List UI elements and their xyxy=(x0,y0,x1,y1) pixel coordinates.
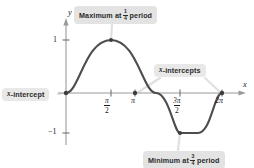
point-maximum xyxy=(109,38,113,42)
x-tick-label-pi-over-2: π 2 xyxy=(104,97,110,115)
callout-minimum-fraction: 3 4 xyxy=(190,154,195,166)
x-tick-label-2pi: 2π xyxy=(215,97,223,105)
sine-curve xyxy=(66,40,222,133)
callout-maximum-fraction: 1 4 xyxy=(123,9,128,21)
callout-leader-lines xyxy=(58,24,221,150)
callout-x-intercepts-text: -intercepts xyxy=(163,67,201,74)
y-tick-label-one: 1 xyxy=(53,36,57,44)
callout-maximum-fraction-numerator: 1 xyxy=(123,9,128,14)
callout-minimum-suffix: period xyxy=(197,157,220,164)
leader-line-minimum xyxy=(178,133,180,150)
callout-minimum-fraction-denominator: 4 xyxy=(190,160,195,167)
sine-curve-figure: y x π 2 π 3π 2 2π 1 −1 Maximum at 1 4 pe… xyxy=(0,0,254,168)
callout-x-intercept-text: -intercept xyxy=(11,91,45,98)
y-tick-label-negative-one: −1 xyxy=(48,128,57,136)
point-minimum xyxy=(178,131,182,135)
x-tick-pi-over-2-numerator: π xyxy=(104,97,110,105)
x-axis-label: x xyxy=(243,80,247,89)
callout-minimum-fraction-numerator: 3 xyxy=(190,154,195,159)
sine-plot xyxy=(0,0,254,168)
x-tick-label-pi: π xyxy=(131,97,135,105)
tick-marks xyxy=(63,40,223,133)
callout-x-intercept: x-intercept xyxy=(2,88,49,101)
callout-x-intercepts: x-intercepts xyxy=(154,64,206,77)
x-tick-label-3pi-over-2: 3π 2 xyxy=(172,97,182,115)
y-axis xyxy=(63,18,68,145)
point-x-intercept-2pi xyxy=(220,91,224,95)
x-tick-3pi-over-2-denominator: 2 xyxy=(174,105,180,114)
callout-minimum: Minimum at 3 4 period xyxy=(143,151,225,168)
callout-minimum-prefix: Minimum at xyxy=(148,157,189,164)
callout-maximum-suffix: period xyxy=(130,12,153,19)
callout-maximum-fraction-denominator: 4 xyxy=(123,15,128,22)
curve-marked-points xyxy=(64,38,224,135)
x-tick-pi-over-2-denominator: 2 xyxy=(104,105,110,114)
x-tick-3pi-over-2-numerator: 3π xyxy=(172,97,182,105)
point-x-intercept-0 xyxy=(64,91,68,95)
callout-maximum-prefix: Maximum at xyxy=(79,12,122,19)
leader-line-xints-right xyxy=(205,78,221,93)
point-x-intercept-pi xyxy=(133,91,137,95)
callout-maximum: Maximum at 1 4 period xyxy=(74,6,157,24)
y-axis-label: y xyxy=(68,8,72,17)
